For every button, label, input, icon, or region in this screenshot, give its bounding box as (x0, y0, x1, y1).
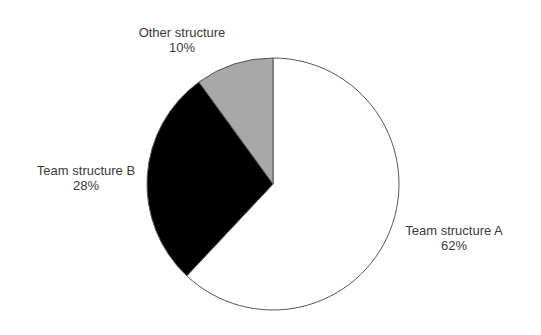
label-b-pct: 28% (37, 178, 135, 193)
label-other-structure: Other structure 10% (139, 25, 226, 55)
label-team-structure-b: Team structure B 28% (37, 163, 135, 193)
label-other-name: Other structure (139, 25, 226, 40)
label-other-pct: 10% (139, 40, 226, 55)
label-b-name: Team structure B (37, 163, 135, 178)
label-a-name: Team structure A (405, 223, 503, 238)
label-a-pct: 62% (405, 238, 503, 253)
label-team-structure-a: Team structure A 62% (405, 223, 503, 253)
